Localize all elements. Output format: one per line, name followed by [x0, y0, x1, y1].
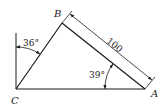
extension-line-B [62, 11, 72, 23]
vertex-label-B: B [53, 8, 61, 19]
angle-arc-36 [16, 47, 40, 54]
vertex-label-A: A [150, 88, 158, 99]
angle-label-39: 39° [89, 70, 105, 80]
vertex-label-C: C [11, 95, 19, 106]
angle-label-36: 36° [23, 38, 39, 48]
side-CB [16, 23, 62, 89]
dimension-label-100: 100 [105, 36, 125, 55]
triangle-diagram: B C A 36° 39° 100 [0, 0, 167, 111]
angle-arc-39 [105, 64, 113, 89]
